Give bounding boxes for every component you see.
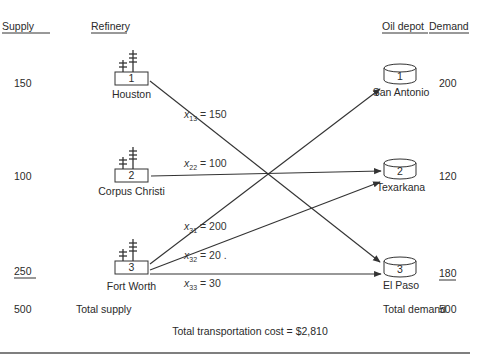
depot-name: El Paso xyxy=(383,279,419,291)
supply-fort-worth: 250 xyxy=(14,265,32,277)
depot-id: 1 xyxy=(397,70,403,82)
flow-label-x22: x22= 100 xyxy=(183,157,227,171)
flow-label-x32: x32= 20 . xyxy=(183,249,227,263)
depot-name: Texarkana xyxy=(377,181,426,193)
depot-name: San Antonio xyxy=(373,86,430,98)
total-supply-label: Total supply xyxy=(76,303,132,315)
refinery-name: Houston xyxy=(112,88,151,100)
demand-san-antonio: 200 xyxy=(439,77,457,89)
total-supply-value: 500 xyxy=(14,303,32,315)
refinery-id: 3 xyxy=(129,261,135,273)
total-transportation-cost: Total transportation cost = $2,810 xyxy=(172,325,328,337)
demand-el-paso: 180 xyxy=(439,267,457,279)
refinery-tower-icon xyxy=(119,50,137,72)
header-demand: Demand xyxy=(429,20,469,32)
flow-labels: x13= 150 x22= 100 x31= 200 x32= 20 . x33… xyxy=(183,108,227,291)
total-demand-value: 500 xyxy=(439,303,457,315)
supply-corpus-christi: 100 xyxy=(14,170,32,182)
header-supply: Supply xyxy=(2,20,35,32)
refinery-id: 1 xyxy=(129,72,135,84)
header-refinery: Refinery xyxy=(91,20,131,32)
depot-san-antonio: 1 San Antonio xyxy=(373,64,430,98)
refinery-houston: 1 Houston xyxy=(112,50,151,100)
refinery-name: Fort Worth xyxy=(107,280,157,292)
flow-label-x33: x33= 30 xyxy=(183,277,221,291)
transportation-network-diagram: Supply Refinery Oil depot Demand x13= 15… xyxy=(0,0,487,354)
flow-label-x31: x31= 200 xyxy=(183,220,227,234)
header-oil-depot: Oil depot xyxy=(382,20,424,32)
depot-texarkana: 2 Texarkana xyxy=(377,159,426,193)
depot-el-paso: 3 El Paso xyxy=(383,257,419,291)
refinery-tower-icon xyxy=(119,239,137,261)
depot-id: 3 xyxy=(397,263,403,275)
refinery-id: 2 xyxy=(129,169,135,181)
refinery-corpus-christi: 2 Corpus Christi xyxy=(98,147,165,197)
refinery-tower-icon xyxy=(119,147,137,169)
depot-id: 2 xyxy=(397,165,403,177)
refinery-fort-worth: 3 Fort Worth xyxy=(107,239,157,292)
supply-houston: 150 xyxy=(14,77,32,89)
column-headers: Supply Refinery Oil depot Demand xyxy=(2,20,469,33)
refinery-name: Corpus Christi xyxy=(98,185,165,197)
total-demand-label: Total demand xyxy=(383,303,446,315)
flow-label-x13: x13= 150 xyxy=(183,108,227,122)
demand-texarkana: 120 xyxy=(439,170,457,182)
